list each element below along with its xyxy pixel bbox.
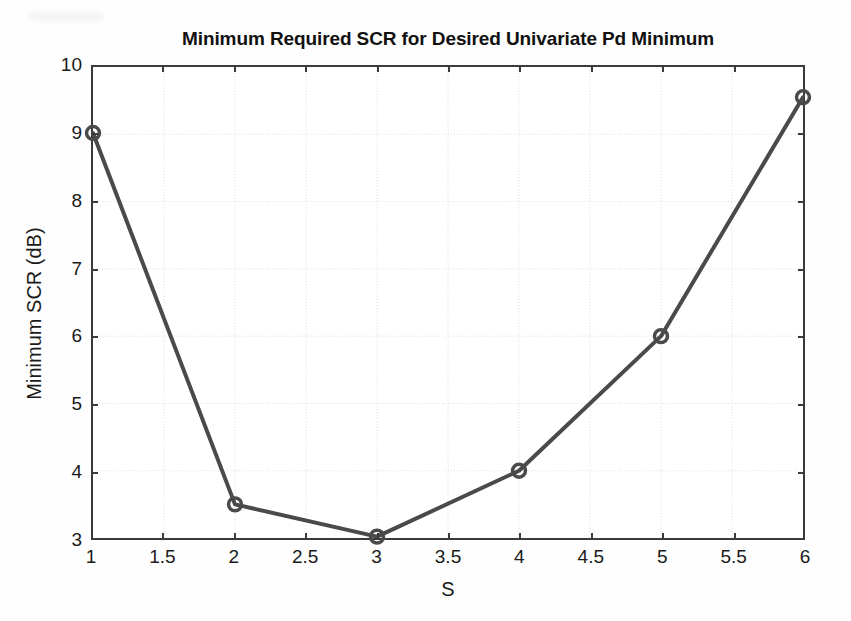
y-tick-mark-right <box>798 336 805 338</box>
y-tick-mark <box>91 472 98 474</box>
y-axis-tick-label: 6 <box>71 325 82 347</box>
x-tick-mark-top <box>662 65 664 72</box>
y-tick-mark <box>91 133 98 135</box>
y-axis-tick-label: 8 <box>71 190 82 212</box>
x-axis-tick-label: 5 <box>657 546 668 568</box>
y-tick-mark <box>91 201 98 203</box>
x-tick-mark-bottom <box>591 533 593 540</box>
series-line <box>93 97 803 536</box>
y-tick-mark-right <box>798 472 805 474</box>
y-tick-mark-right <box>798 404 805 406</box>
x-tick-mark-top <box>234 65 236 72</box>
x-tick-mark-bottom <box>519 533 521 540</box>
x-tick-mark-top <box>519 65 521 72</box>
x-tick-mark-bottom <box>448 533 450 540</box>
x-tick-mark-bottom <box>234 533 236 540</box>
x-axis-tick-label: 3.5 <box>435 546 461 568</box>
x-tick-mark-bottom <box>305 533 307 540</box>
y-tick-mark <box>91 404 98 406</box>
x-tick-mark-top <box>734 65 736 72</box>
x-axis-tick-label: 1.5 <box>149 546 175 568</box>
x-axis-label: S <box>91 578 805 601</box>
plot-area <box>91 65 805 540</box>
y-axis-tick-label: 9 <box>71 122 82 144</box>
y-tick-mark-right <box>798 133 805 135</box>
figure-canvas: Minimum Required SCR for Desired Univari… <box>0 0 851 621</box>
x-axis-tick-label: 1 <box>86 546 97 568</box>
y-axis-tick-label: 10 <box>61 54 82 76</box>
y-axis-tick-label: 5 <box>71 393 82 415</box>
y-axis-label: Minimum SCR (dB) <box>23 214 46 414</box>
x-axis-tick-label: 2 <box>229 546 240 568</box>
y-axis-tick-label: 4 <box>71 461 82 483</box>
x-axis-tick-label: 4 <box>514 546 525 568</box>
x-tick-mark-top <box>448 65 450 72</box>
x-tick-mark-bottom <box>162 533 164 540</box>
data-series <box>93 67 803 538</box>
x-tick-mark-bottom <box>662 533 664 540</box>
x-axis-tick-label: 4.5 <box>578 546 604 568</box>
y-axis-tick-label: 3 <box>71 529 82 551</box>
y-tick-mark <box>91 336 98 338</box>
x-tick-mark-top <box>377 65 379 72</box>
page-title: Minimum Required SCR for Desired Univari… <box>91 28 805 50</box>
y-tick-mark <box>91 269 98 271</box>
y-tick-mark-right <box>798 269 805 271</box>
x-tick-mark-bottom <box>734 533 736 540</box>
scan-artifact <box>30 12 102 21</box>
y-axis-tick-label: 7 <box>71 258 82 280</box>
x-axis-tick-label: 3 <box>371 546 382 568</box>
x-tick-mark-top <box>305 65 307 72</box>
x-axis-tick-label: 5.5 <box>720 546 746 568</box>
y-tick-mark-right <box>798 201 805 203</box>
x-tick-mark-top <box>162 65 164 72</box>
x-tick-mark-bottom <box>377 533 379 540</box>
x-axis-tick-label: 6 <box>800 546 811 568</box>
x-axis-tick-label: 2.5 <box>292 546 318 568</box>
x-tick-mark-top <box>591 65 593 72</box>
